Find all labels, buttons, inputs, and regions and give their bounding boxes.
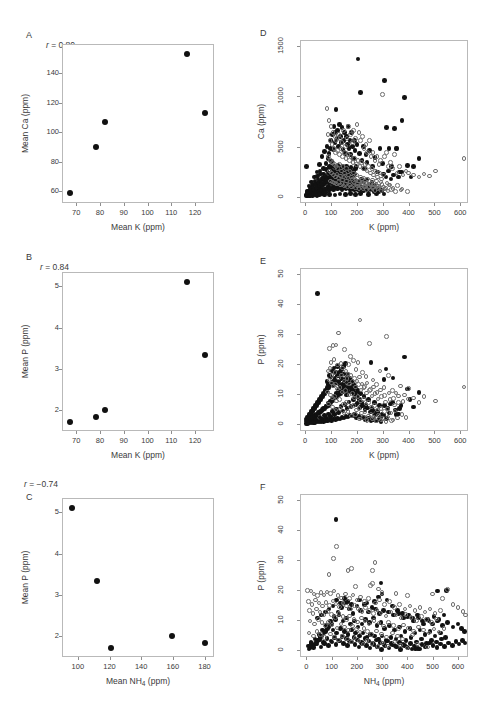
y-tick-label: 3 xyxy=(29,590,59,599)
x-tick xyxy=(458,657,459,660)
x-tick-label: 120 xyxy=(181,436,209,445)
data-point-filled xyxy=(417,390,422,395)
x-tick-label: 300 xyxy=(369,436,397,445)
data-point-open xyxy=(401,399,406,404)
data-point-open xyxy=(429,620,434,625)
data-point-filled xyxy=(102,119,108,125)
x-tick xyxy=(305,431,306,434)
plot-area-b xyxy=(62,272,214,431)
data-point-filled xyxy=(417,647,422,652)
x-tick-label: 600 xyxy=(446,208,474,217)
data-point-open xyxy=(427,174,432,179)
data-point-open xyxy=(351,128,356,133)
data-point-open xyxy=(434,617,439,622)
data-point-open xyxy=(414,618,419,623)
panel-letter-b: B xyxy=(26,252,32,262)
y-tick xyxy=(59,132,62,133)
data-point-filled xyxy=(403,629,408,634)
data-point-open xyxy=(344,400,349,405)
x-tick xyxy=(383,431,384,434)
y-tick xyxy=(297,424,300,425)
data-point-open xyxy=(346,362,351,367)
y-axis-title-a: Mean Ca (ppm) xyxy=(20,44,30,203)
data-point-open xyxy=(312,622,317,627)
data-point-open xyxy=(384,334,389,339)
data-point-filled xyxy=(442,644,447,649)
y-tick-label: 4 xyxy=(29,323,59,332)
data-point-open xyxy=(390,166,395,171)
data-point-filled xyxy=(384,125,389,130)
data-point-open xyxy=(381,173,386,178)
data-point-open xyxy=(371,611,376,616)
data-point-open xyxy=(344,617,349,622)
data-point-filled xyxy=(202,110,208,116)
panel-letter-a: A xyxy=(26,30,32,40)
x-tick-label: 600 xyxy=(446,436,474,445)
data-point-open xyxy=(365,638,370,643)
y-tick-label: 0 xyxy=(276,181,285,211)
x-tick xyxy=(124,203,125,206)
data-point-open xyxy=(373,391,378,396)
x-tick xyxy=(76,431,77,434)
data-point-filled xyxy=(419,637,424,642)
x-tick xyxy=(100,431,101,434)
panel-letter-d: D xyxy=(260,28,267,38)
y-tick-label: 140 xyxy=(29,68,59,77)
data-point-open xyxy=(346,124,351,129)
data-point-open xyxy=(390,631,395,636)
x-tick-label: 100 xyxy=(64,662,92,671)
data-point-open xyxy=(395,183,400,188)
x-tick xyxy=(306,657,307,660)
data-point-open xyxy=(339,373,344,378)
x-tick xyxy=(124,431,125,434)
plot-area-a xyxy=(62,44,214,203)
data-point-open xyxy=(322,635,327,640)
plot-area-c xyxy=(62,498,214,657)
data-point-open xyxy=(376,644,381,649)
data-point-open xyxy=(392,640,397,645)
data-point-open xyxy=(400,637,405,642)
x-tick xyxy=(148,203,149,206)
x-tick-label: 200 xyxy=(343,662,371,671)
data-point-open xyxy=(348,132,353,137)
y-axis-title-f: P (ppm) xyxy=(256,494,266,657)
correlation-label-c: r = −0.74 xyxy=(24,479,58,489)
data-point-open xyxy=(386,620,391,625)
y-tick xyxy=(297,650,300,651)
y-tick-label: 4 xyxy=(29,549,59,558)
y-axis-title-b: Mean P (ppm) xyxy=(20,272,30,431)
data-point-filled xyxy=(348,191,353,196)
data-point-open xyxy=(413,608,418,613)
y-axis-title-e: P (ppm) xyxy=(256,268,266,431)
x-tick-label: 0 xyxy=(292,662,320,671)
y-tick-label: 50 xyxy=(276,484,285,514)
data-point-open xyxy=(384,635,389,640)
x-tick xyxy=(100,203,101,206)
data-point-open xyxy=(358,138,363,143)
y-tick xyxy=(59,286,62,287)
data-point-open xyxy=(391,623,396,628)
data-point-open xyxy=(364,374,369,379)
y-tick xyxy=(297,394,300,395)
data-point-open xyxy=(424,617,429,622)
data-point-open xyxy=(388,160,393,165)
data-point-open xyxy=(377,162,382,167)
data-point-open xyxy=(311,634,316,639)
data-point-open xyxy=(404,415,409,420)
data-point-open xyxy=(385,644,390,649)
data-point-filled xyxy=(462,629,467,634)
data-point-open xyxy=(327,346,332,351)
y-tick xyxy=(297,197,300,198)
data-point-open xyxy=(401,623,406,628)
x-axis-title-e: K (ppm) xyxy=(300,450,468,460)
y-tick-label: 30 xyxy=(276,318,285,348)
x-tick-label: 200 xyxy=(343,436,371,445)
data-point-open xyxy=(354,367,359,372)
x-tick-label: 0 xyxy=(291,436,319,445)
x-tick xyxy=(171,431,172,434)
data-point-filled xyxy=(369,360,374,365)
data-point-filled xyxy=(417,156,422,161)
y-tick-label: 2 xyxy=(29,631,59,640)
x-tick xyxy=(407,657,408,660)
data-point-open xyxy=(411,173,416,178)
